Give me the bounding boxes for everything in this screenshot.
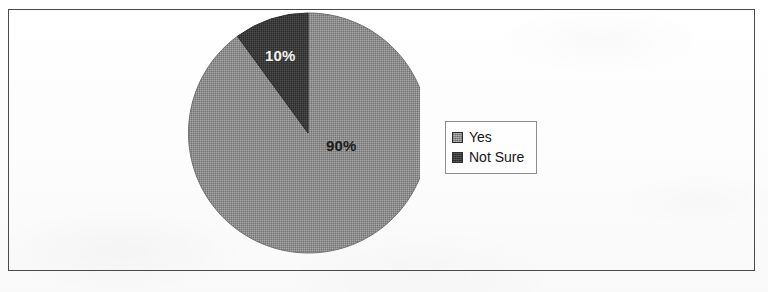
pie-label-not-sure: 10%: [265, 47, 296, 64]
plot-area: 90% 10% Yes Not Sure: [9, 10, 754, 270]
pie-label-yes: 90%: [326, 137, 357, 154]
legend-label-not-sure: Not Sure: [469, 150, 524, 164]
legend-swatch-not-sure-icon: [452, 152, 463, 163]
legend-swatch-yes-icon: [452, 132, 463, 143]
legend-item-yes[interactable]: Yes: [452, 127, 528, 147]
pie-svg: [180, 12, 420, 254]
chart-legend: Yes Not Sure: [445, 121, 537, 174]
legend-label-yes: Yes: [469, 130, 492, 144]
chart-frame: 90% 10% Yes Not Sure: [8, 9, 755, 271]
legend-item-not-sure[interactable]: Not Sure: [452, 147, 528, 167]
pie-chart: 90% 10%: [180, 12, 420, 254]
scanned-page: 90% 10% Yes Not Sure: [0, 0, 768, 292]
